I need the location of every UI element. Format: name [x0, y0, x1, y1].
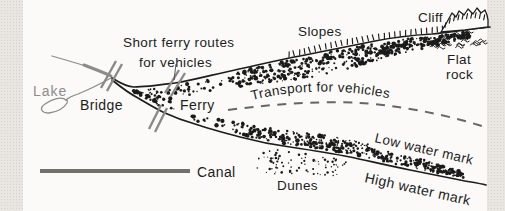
canal-label: Canal: [197, 164, 236, 180]
ferry-crossing-lower-symbol: [149, 105, 167, 132]
short-ferry-label-line2: for vehicles: [139, 55, 212, 70]
ferry-upper-slash-2: [171, 73, 185, 96]
pond-outline: [42, 98, 68, 113]
cliff-label: Cliff: [418, 10, 443, 25]
flat-rock-label-line1: Flat: [447, 52, 471, 67]
transport-label: Transport for vehicles: [249, 80, 391, 103]
cliff-outline: [441, 8, 488, 32]
bridge-label: Bridge: [80, 97, 123, 113]
slopes-label: Slopes: [298, 24, 342, 39]
river-inflow-wedge: [84, 65, 111, 76]
bridge-slash-1: [101, 61, 116, 88]
ferry-label: Ferry: [180, 97, 215, 113]
short-ferry-label-line1: Short ferry routes: [123, 35, 235, 50]
lake-label: Lake: [33, 83, 67, 99]
scanned-figure-page: Lake Bridge Short ferry routes for vehic…: [0, 0, 505, 211]
flat-rock-label-line2: rock: [446, 67, 473, 82]
transport-route-dashed-line: [228, 102, 482, 126]
map-symbols-diagram: Lake Bridge Short ferry routes for vehic…: [0, 0, 505, 211]
dunes-label: Dunes: [277, 178, 318, 193]
cliff-group: [441, 8, 488, 32]
